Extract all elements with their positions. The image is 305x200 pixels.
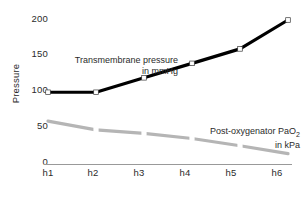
series-label-post-oxygenator-pao2: Post-oxygenator PaO2 in kPa [170,126,300,151]
series-label-pao2-subscript: 2 [296,131,300,138]
series-label-pao2-line1: Post-oxygenator PaO [210,126,296,136]
series-label-tmp-line1: Transmembrane pressure [75,55,178,65]
series-label-pao2-line2: in kPa [275,140,300,150]
chart-container: Pressure 200 150 100 50 0 h1 h2 h3 h4 h5… [0,0,305,200]
plot-area [0,0,305,200]
series-label-tmp-line2: in mmHg [142,66,178,76]
series-label-transmembrane-pressure: Transmembrane pressure in mmHg [46,55,178,77]
